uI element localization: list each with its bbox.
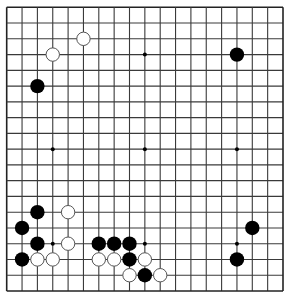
go-board[interactable] (0, 0, 284, 305)
star-point (235, 147, 239, 151)
black-stone (122, 252, 136, 266)
black-stone (15, 221, 29, 235)
black-stone (122, 237, 136, 251)
black-stone (30, 237, 44, 251)
black-stone (230, 252, 244, 266)
black-stone (15, 252, 29, 266)
black-stone (138, 268, 152, 282)
white-stone (46, 48, 59, 61)
white-stone (61, 237, 74, 250)
black-stone (245, 221, 259, 235)
white-stone (46, 253, 59, 266)
black-stone (107, 237, 121, 251)
white-stone (138, 253, 151, 266)
black-stone (30, 205, 44, 219)
white-stone (107, 253, 120, 266)
white-stone (92, 253, 105, 266)
star-point (51, 147, 55, 151)
star-point (235, 242, 239, 246)
star-point (143, 53, 147, 57)
black-stone (230, 47, 244, 61)
star-point (143, 147, 147, 151)
white-stone (123, 269, 136, 282)
black-stone (30, 79, 44, 93)
black-stone (92, 237, 106, 251)
star-point (143, 242, 147, 246)
white-stone (61, 205, 74, 218)
star-point (51, 242, 55, 246)
white-stone (77, 32, 90, 45)
white-stone (154, 269, 167, 282)
white-stone (31, 253, 44, 266)
